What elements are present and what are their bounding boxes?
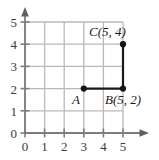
y-tick-label-2: 2 xyxy=(3,83,17,96)
y-tick-label-0: 0 xyxy=(3,127,17,140)
point-b xyxy=(120,86,126,92)
coordinate-plane-graphic xyxy=(0,0,159,160)
point-label-b: B(5, 2) xyxy=(105,93,141,106)
point-a xyxy=(81,86,87,92)
x-tick-label-0: 0 xyxy=(17,140,33,153)
x-tick-label-2: 2 xyxy=(56,140,72,153)
x-tick-label-3: 3 xyxy=(76,140,92,153)
point-c xyxy=(120,41,126,47)
x-axis xyxy=(25,129,149,137)
y-tick-label-5: 5 xyxy=(3,16,17,29)
y-axis xyxy=(21,7,29,133)
y-tick-label-1: 1 xyxy=(3,105,17,118)
y-tick-label-3: 3 xyxy=(3,60,17,73)
x-tick-label-5: 5 xyxy=(115,140,131,153)
point-label-a: A xyxy=(72,93,80,106)
x-tick-label-4: 4 xyxy=(95,140,111,153)
y-tick-label-4: 4 xyxy=(3,38,17,51)
point-label-c: C(5, 4) xyxy=(89,25,126,38)
coordinate-plane-figure: 0 1 2 3 4 5 0 1 2 3 4 5 A B(5, 2) C(5, 4… xyxy=(0,0,159,160)
x-tick-label-1: 1 xyxy=(37,140,53,153)
